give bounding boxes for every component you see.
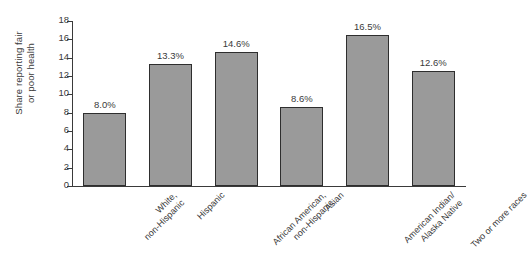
bar-slot: 14.6% bbox=[215, 21, 258, 186]
y-tick-label: 2 bbox=[64, 161, 69, 172]
y-tick-label: 16 bbox=[58, 32, 69, 43]
bar-value-label: 16.5% bbox=[354, 21, 381, 32]
bar[interactable] bbox=[346, 35, 389, 186]
y-tick-label: 8 bbox=[64, 106, 69, 117]
x-axis-line bbox=[72, 186, 466, 187]
bar[interactable] bbox=[412, 71, 455, 187]
y-axis-title-line-2: or poor health bbox=[25, 0, 37, 153]
bar-slot: 12.6% bbox=[412, 21, 455, 186]
x-category-label: African American,non-Hispanic bbox=[271, 190, 336, 255]
y-axis-title-line-1: Share reporting fair bbox=[13, 0, 25, 153]
y-axis-title: Share reporting fair or poor health bbox=[13, 0, 43, 153]
plot-area: 024681012141618 8.0%13.3%14.6%8.6%16.5%1… bbox=[72, 21, 466, 186]
bar-value-label: 8.6% bbox=[291, 93, 313, 104]
bar[interactable] bbox=[280, 107, 323, 186]
x-category-label: Two or more races bbox=[469, 190, 529, 250]
y-tick-label: 0 bbox=[64, 179, 69, 190]
bar[interactable] bbox=[83, 113, 126, 186]
bar-value-label: 8.0% bbox=[94, 99, 116, 110]
bar-value-label: 14.6% bbox=[223, 38, 250, 49]
x-category-label: White,non-Hispanic bbox=[134, 190, 186, 242]
bar-slot: 16.5% bbox=[346, 21, 389, 186]
x-category-label: Hispanic bbox=[195, 190, 227, 222]
x-category-label: American Indian/Alaska Native bbox=[401, 190, 464, 253]
y-tick: 0 bbox=[72, 186, 73, 187]
y-tick-label: 4 bbox=[64, 142, 69, 153]
x-category-label-line: Two or more races bbox=[469, 190, 529, 250]
bar-value-label: 13.3% bbox=[157, 50, 184, 61]
y-tick-label: 6 bbox=[64, 124, 69, 135]
bar[interactable] bbox=[215, 52, 258, 186]
bar-series: 8.0%13.3%14.6%8.6%16.5%12.6% bbox=[72, 21, 466, 186]
bar-slot: 8.0% bbox=[83, 21, 126, 186]
x-category-label-line: Asian bbox=[322, 190, 345, 213]
bar-value-label: 12.6% bbox=[420, 57, 447, 68]
bar-slot: 8.6% bbox=[280, 21, 323, 186]
x-category-label: Asian bbox=[322, 190, 345, 213]
x-category-label-line: Hispanic bbox=[195, 190, 227, 222]
bar-slot: 13.3% bbox=[149, 21, 192, 186]
y-tick-label: 14 bbox=[58, 51, 69, 62]
y-tick-label: 12 bbox=[58, 69, 69, 80]
y-tick-label: 10 bbox=[58, 87, 69, 98]
bar[interactable] bbox=[149, 64, 192, 186]
y-tick-label: 18 bbox=[58, 14, 69, 25]
